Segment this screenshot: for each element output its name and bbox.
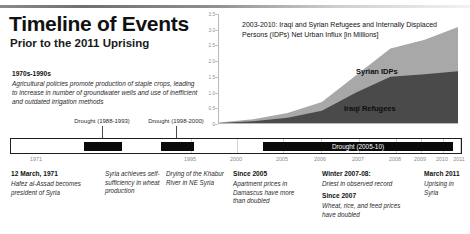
- page-title: Timeline of Events: [9, 13, 189, 35]
- year-tick-label: 2000: [230, 156, 242, 162]
- annotation-heading: Since 2007: [322, 192, 412, 201]
- year-tick-label: 2008: [389, 156, 401, 162]
- annotation-body: Drying of the Khabur River in NE Syria: [166, 170, 224, 187]
- year-tick-label: 2006: [314, 156, 326, 162]
- timeline-annotation: Winter 2007-08:Driest in observed record: [322, 170, 416, 189]
- timeline-bar: Drought (2005-10): [10, 138, 462, 154]
- annotation-body: Uprising in Syria: [424, 180, 468, 197]
- drought-callout-label: Drought (1998-2000): [148, 118, 204, 124]
- y-axis-tick-mark: [215, 14, 218, 15]
- page-subtitle: Prior to the 2011 Uprising: [10, 37, 149, 49]
- y-axis-tick-mark: [215, 77, 218, 78]
- y-axis-tick-mark: [215, 124, 218, 125]
- drought-callout-label: Drought (1988-1993): [74, 118, 130, 124]
- year-tick-label: 2007: [352, 156, 364, 162]
- header-divider: [0, 5, 470, 8]
- slide-root: Timeline of Events Prior to the 2011 Upr…: [0, 0, 470, 234]
- annotation-body: Hafez al-Assad becomes president of Syri…: [11, 180, 83, 197]
- drought-bar: [84, 142, 122, 151]
- annotation-body: Apartment prices in Damascus have more t…: [233, 180, 299, 206]
- early-period-note-heading: 1970s-1990s: [12, 70, 198, 77]
- series-label-iraqi-refugees: Iraqi Refugees: [344, 104, 396, 113]
- refugee-influx-chart: 3.53.02.52.01.51.00.50 2003-2010: Iraqi …: [196, 14, 462, 130]
- timeline-annotation: Since 2005Apartment prices in Damascus h…: [233, 170, 299, 206]
- year-tick-label: 2005: [276, 156, 288, 162]
- timeline-annotation: Drying of the Khabur River in NE Syria: [166, 170, 224, 187]
- year-tick-label: 2011: [453, 156, 465, 162]
- timeline-annotation: 12 March, 1971Hafez al-Assad becomes pre…: [11, 170, 83, 197]
- drought-bar: [161, 142, 194, 151]
- year-tick-label: 1995: [184, 156, 196, 162]
- y-axis-tick-mark: [215, 30, 218, 31]
- y-axis-tick-mark: [215, 108, 218, 109]
- y-axis-tick-mark: [215, 93, 218, 94]
- year-tick-label: 2010: [436, 156, 448, 162]
- annotation-body: Wheat, rice, and feed prices have double…: [322, 202, 412, 219]
- y-axis-tick-mark: [215, 61, 218, 62]
- annotation-heading: March 2011: [424, 170, 468, 179]
- timeline-annotation: Syria achieves self-sufficiency in wheat…: [105, 170, 163, 196]
- y-axis-tick-mark: [215, 45, 218, 46]
- drought-bar-label: Drought (2005-10): [263, 142, 453, 151]
- annotation-heading: Winter 2007-08:: [322, 170, 416, 179]
- timeline-gridline: [460, 139, 461, 153]
- timeline-gridline: [237, 139, 238, 153]
- annotation-body: Syria achieves self-sufficiency in wheat…: [105, 170, 163, 196]
- early-period-note: 1970s-1990s Agricultural policies promot…: [12, 70, 198, 107]
- timeline-annotation: March 2011Uprising in Syria: [424, 170, 468, 197]
- year-tick-label: 1971: [30, 156, 42, 162]
- annotation-heading: Since 2005: [233, 170, 299, 179]
- timeline-annotation: Since 2007Wheat, rice, and feed prices h…: [322, 192, 412, 219]
- annotation-body: Driest in observed record: [322, 180, 416, 189]
- drought-bar: Drought (2005-10): [263, 142, 453, 151]
- annotation-heading: 12 March, 1971: [11, 170, 83, 179]
- early-period-note-body: Agricultural policies promote production…: [12, 79, 198, 107]
- year-tick-label: 2009: [414, 156, 426, 162]
- series-label-syrian-idps: Syrian IDPs: [356, 67, 398, 76]
- chart-title: 2003-2010: Iraqi and Syrian Refugees and…: [242, 20, 442, 40]
